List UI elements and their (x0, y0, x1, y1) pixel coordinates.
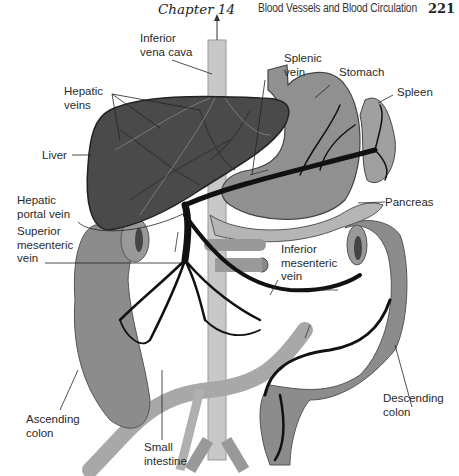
label-descending-colon: Descending colon (383, 392, 444, 419)
label-ascending-colon: Ascending colon (26, 413, 80, 440)
label-pancreas: Pancreas (385, 196, 434, 210)
label-stomach: Stomach (339, 66, 384, 80)
label-spleen: Spleen (397, 86, 433, 100)
label-small-intestine: Small intestine (144, 441, 187, 468)
label-hepatic-portal-vein: Hepatic portal vein (17, 194, 70, 221)
label-inferior-mesenteric-vein: Inferior mesenteric vein (281, 243, 337, 284)
label-hepatic-veins: Hepatic veins (64, 85, 103, 112)
label-liver: Liver (42, 149, 67, 163)
label-superior-mesenteric-vein: Superior mesenteric vein (17, 225, 73, 266)
label-inferior-vena-cava: Inferior vena cava (140, 32, 192, 59)
label-splenic-vein: Splenic vein (284, 52, 322, 79)
